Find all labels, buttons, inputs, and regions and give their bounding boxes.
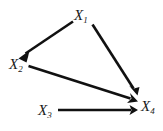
edge-x1-to-x4-line xyxy=(93,25,134,89)
node-x3-variable: X xyxy=(38,102,47,118)
node-label-x3: X3 xyxy=(38,102,52,118)
edge-x1-to-x4 xyxy=(93,25,140,96)
edge-x2-to-x4-line xyxy=(29,66,131,99)
node-label-x1: X1 xyxy=(74,7,88,23)
node-x4-subscript: 4 xyxy=(150,106,155,116)
node-x2-variable: X xyxy=(9,56,18,72)
edge-x1-to-x2-line xyxy=(26,22,74,54)
node-x1-subscript: 1 xyxy=(83,15,88,25)
edge-x3-to-x4 xyxy=(58,105,138,115)
node-x3-subscript: 3 xyxy=(47,110,52,120)
node-x2-subscript: 2 xyxy=(18,64,23,74)
edge-x1-to-x2 xyxy=(19,22,74,63)
node-x1-variable: X xyxy=(74,7,83,23)
node-label-x4: X4 xyxy=(141,98,155,114)
node-label-x2: X2 xyxy=(9,56,23,72)
causal-dag-figure: X1 X2 X3 X4 xyxy=(0,0,163,131)
node-x4-variable: X xyxy=(141,98,150,114)
